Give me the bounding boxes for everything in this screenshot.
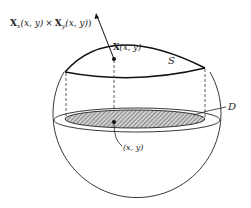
sphere-outline <box>53 72 221 198</box>
domain-name-label: D <box>227 101 236 112</box>
surface-point-dot <box>112 57 116 61</box>
normal-vector-arrow <box>97 16 114 59</box>
surface-name-label: S <box>168 55 175 66</box>
surface-point-label: X(x, y) <box>113 42 141 52</box>
domain-point-label: (x, y) <box>123 143 143 152</box>
normal-vector-label: Xx(x, y)×Xy(x, y)) <box>10 18 92 30</box>
surface-cap-rim <box>65 68 205 78</box>
domain-region-D <box>65 110 205 128</box>
domain-point-dot <box>112 120 116 124</box>
arrowhead-icon <box>95 13 100 19</box>
sphere-surface-diagram: Xx(x, y)×Xy(x, y)) X(x, y) S D (x, y) <box>0 0 251 208</box>
